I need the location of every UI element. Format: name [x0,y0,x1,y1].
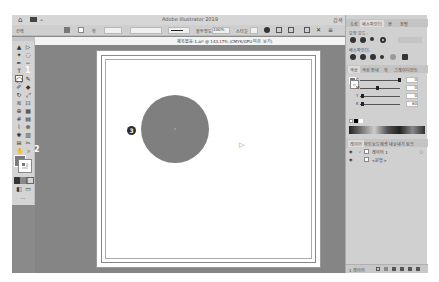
new-sublayer-icon[interactable] [400,267,404,271]
recolor-icon[interactable] [264,27,270,33]
expand-arrow-icon[interactable]: › [359,149,361,154]
width-tool-icon[interactable]: ≋ [15,99,23,106]
delete-icon[interactable] [416,267,420,271]
unite-icon[interactable] [350,37,356,43]
eye-icon[interactable]: ◉ [349,149,353,154]
tab-color-guide[interactable]: 색상 안내 [360,66,381,73]
intersect-icon[interactable] [370,37,374,41]
none-mode-icon[interactable] [26,177,34,184]
draw-mode-icon[interactable]: ◧ [15,185,23,192]
tab-color[interactable]: 색상 [348,66,360,73]
clipping-mask-icon[interactable] [392,267,396,271]
minus-back-icon[interactable] [402,54,408,60]
tab-transform[interactable]: 변 [386,20,394,27]
color-spectrum[interactable] [349,126,425,134]
tab-asset-export[interactable]: 에셋 내보내기 [378,140,407,147]
target-icon[interactable]: ○ [420,149,424,154]
shaper-tool-icon[interactable]: ✐ [15,83,23,90]
slider-thumb[interactable] [398,78,401,82]
slider-k[interactable]: K 60 [356,101,426,107]
zoom-tool-icon[interactable]: ⌕ [24,147,32,154]
document-tab[interactable]: 제목없음-1.ai* @ 143.17% (CMYK/GPU 미리 보기) [35,37,345,45]
eyedropper-tool-icon[interactable]: ⌇ [15,123,23,130]
slider-y[interactable]: Y 0 [356,93,426,99]
workspace-icon[interactable] [30,17,37,22]
slider-thumb[interactable] [361,102,364,106]
isolate-icon[interactable]: ✕ [316,27,322,33]
circle-shape[interactable] [141,95,209,163]
transform-icon[interactable] [304,27,310,33]
mesh-tool-icon[interactable]: # [15,115,23,122]
locate-object-icon[interactable] [384,267,388,271]
curvature-tool-icon[interactable]: ∽ [24,59,32,66]
blend-tool-icon[interactable]: ⊗ [24,123,32,130]
fill-swatch-icon[interactable] [64,27,70,33]
symbol-sprayer-tool-icon[interactable]: ✺ [15,131,23,138]
slider-c[interactable]: C 0 [356,77,426,83]
direct-selection-tool-icon[interactable]: ▷ [24,43,32,50]
opacity-field[interactable]: 100% [212,27,230,34]
home-icon[interactable]: ⌂ [18,16,22,24]
pen-tool-icon[interactable]: ✒ [15,59,23,66]
stroke-swatch-icon[interactable] [78,27,84,33]
white-swatch[interactable] [359,119,363,123]
exclude-icon[interactable] [380,37,386,43]
artboard-tool-icon[interactable]: ⊞ [15,139,23,146]
tab-pathfinder[interactable]: 패스파인더 [360,20,384,27]
merge-icon[interactable] [370,54,376,60]
artboard[interactable]: ▷ 3 [96,50,321,268]
tab-align[interactable]: 정렬 [398,20,410,27]
lasso-tool-icon[interactable]: ◌ [24,51,32,58]
trim-icon[interactable] [360,54,366,60]
layer-row[interactable]: ◉ › 레이어 1 ○ [349,149,425,156]
stroke-swatch[interactable] [19,160,31,172]
layer-row[interactable]: ◉ <원형> [349,157,425,164]
paintbrush-tool-icon[interactable]: ✎ [24,75,32,82]
perspective-grid-tool-icon[interactable]: ▦ [24,107,32,114]
new-layer-icon[interactable] [408,267,412,271]
brush-definition-select[interactable] [168,27,190,34]
minus-front-icon[interactable] [360,37,366,43]
scale-tool-icon[interactable]: ⤢ [24,91,32,98]
distribute-icon[interactable] [288,27,294,33]
style-swatch[interactable] [250,27,258,34]
gradient-tool-icon[interactable]: ▤ [24,115,32,122]
none-swatch[interactable] [349,119,353,123]
edit-toolbar-icon[interactable]: ··· [19,195,27,202]
black-swatch[interactable] [354,119,358,123]
shape-builder-tool-icon[interactable]: ⊕ [15,107,23,114]
export-icon[interactable] [376,267,380,271]
ellipse-tool-icon[interactable]: ◯ [15,75,23,82]
rotate-tool-icon[interactable]: ↻ [15,91,23,98]
eraser-tool-icon[interactable]: ◆ [24,83,32,90]
free-transform-tool-icon[interactable]: ⊡ [24,99,32,106]
slice-tool-icon[interactable]: ✂ [24,139,32,146]
eye-icon[interactable]: ◉ [349,157,353,162]
hand-tool-icon[interactable]: ✋ [15,147,23,154]
slider-thumb[interactable] [361,94,364,98]
expand-button[interactable] [398,37,422,43]
slider-thumb[interactable] [376,86,379,90]
layer-name[interactable]: 레이어 1 [372,149,388,155]
tab-gradient[interactable]: 그레이디언트 [392,66,420,73]
screen-mode-icon[interactable]: ▭ [24,185,32,192]
selection-tool-icon[interactable]: ▲ [15,43,23,50]
chevron-down-icon[interactable]: ⌄ [39,15,44,22]
tab-properties[interactable]: 속성 [348,20,360,27]
column-graph-tool-icon[interactable]: ▥ [24,131,32,138]
magic-wand-tool-icon[interactable]: ✦ [15,51,23,58]
tab-stroke[interactable]: 획 [382,66,390,73]
align-icon[interactable] [276,27,282,33]
crop-icon[interactable] [380,55,384,59]
variable-width-field[interactable] [130,27,162,34]
outline-icon[interactable] [390,54,396,60]
stroke-weight-field[interactable] [104,27,122,34]
slider-m[interactable]: M 0 [356,85,426,91]
layer-name[interactable]: <원형> [372,157,387,163]
type-tool-icon[interactable]: T [15,67,23,74]
menu-icon[interactable]: ≡ [328,27,334,33]
canvas-area[interactable]: ▷ 3 [35,45,345,273]
divide-icon[interactable] [350,54,356,60]
search-label[interactable]: 검색 [333,16,343,23]
tab-links[interactable]: 링크 [404,140,416,147]
